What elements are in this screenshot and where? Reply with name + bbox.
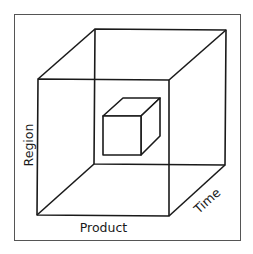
inner-sub-cube	[103, 98, 160, 155]
axis-label-time: Time	[190, 185, 224, 217]
outer-cube-edge-tl	[38, 29, 95, 79]
outer-cube-edge-tr	[169, 30, 226, 80]
inner-cube-front-face	[103, 116, 141, 155]
outer-cube-edge-bl	[37, 164, 94, 215]
data-cube-diagram: Product Region Time	[0, 0, 253, 254]
axis-label-region: Region	[21, 124, 36, 167]
axis-label-product: Product	[80, 220, 128, 235]
